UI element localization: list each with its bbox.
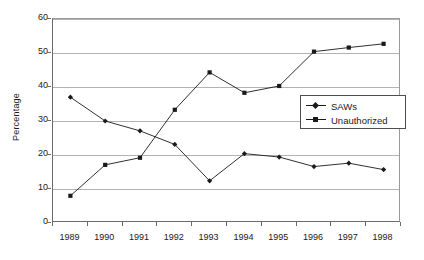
legend-item-unauthorized: Unauthorized <box>305 113 401 127</box>
x-tick-mark <box>226 222 227 226</box>
y-tick-label: 10 <box>22 182 48 192</box>
y-tick-mark <box>47 222 51 223</box>
y-tick-mark <box>47 86 51 87</box>
data-point <box>68 194 72 198</box>
data-point <box>173 108 177 112</box>
x-tick-mark <box>296 222 297 226</box>
legend-label-unauthorized: Unauthorized <box>327 115 388 126</box>
x-tick-mark <box>330 222 331 226</box>
data-point <box>242 91 246 95</box>
data-point <box>312 50 316 54</box>
data-point <box>277 154 282 159</box>
legend-marker-diamond-icon <box>305 100 327 112</box>
x-tick-mark <box>87 222 88 226</box>
legend-label-saws: SAWs <box>327 101 357 112</box>
legend-item-saws: SAWs <box>305 99 401 113</box>
data-point <box>347 45 351 49</box>
data-point <box>138 156 142 160</box>
y-tick-label: 0 <box>22 216 48 226</box>
y-tick-mark <box>47 120 51 121</box>
y-tick-label: 50 <box>22 46 48 56</box>
y-tick-label: 40 <box>22 80 48 90</box>
data-point <box>137 128 142 133</box>
x-tick-mark <box>261 222 262 226</box>
data-point <box>382 42 386 46</box>
y-tick-mark <box>47 154 51 155</box>
y-tick-mark <box>47 52 51 53</box>
x-tick-label: 1998 <box>363 232 403 242</box>
y-axis-tick-labels: 0102030405060 <box>20 0 48 260</box>
data-point <box>208 70 212 74</box>
y-tick-label: 30 <box>22 114 48 124</box>
data-point <box>277 84 281 88</box>
chart-legend: SAWs Unauthorized <box>300 95 406 129</box>
data-point <box>311 164 316 169</box>
x-tick-mark <box>191 222 192 226</box>
data-point <box>103 163 107 167</box>
data-point <box>103 118 108 123</box>
x-tick-mark <box>52 222 53 226</box>
y-tick-mark <box>47 188 51 189</box>
x-tick-mark <box>365 222 366 226</box>
x-tick-mark <box>122 222 123 226</box>
x-tick-mark <box>400 222 401 226</box>
data-point <box>346 161 351 166</box>
y-tick-label: 60 <box>22 12 48 22</box>
data-point <box>68 95 73 100</box>
y-tick-mark <box>47 18 51 19</box>
y-tick-label: 20 <box>22 148 48 158</box>
line-chart: Percentage 0102030405060 198919901991199… <box>0 0 424 260</box>
legend-marker-square-icon <box>305 114 327 126</box>
x-tick-mark <box>156 222 157 226</box>
data-point <box>381 167 386 172</box>
